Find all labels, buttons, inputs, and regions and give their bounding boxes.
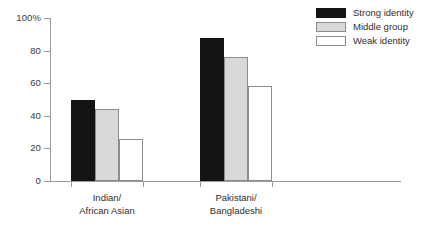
legend-swatch-middle-group: [316, 22, 346, 32]
legend-label-middle-group: Middle group: [353, 22, 408, 32]
y-axis-tick-label: 100%: [16, 13, 41, 23]
y-axis-tick-label: 60: [30, 78, 41, 88]
bar: [224, 57, 248, 181]
y-axis-tick-label: 0: [36, 176, 41, 186]
legend-item[interactable]: Weak identity: [316, 34, 414, 48]
legend-swatch-weak-identity: [316, 36, 346, 46]
legend-label-strong-identity: Strong identity: [353, 8, 414, 18]
category-label: Pakistani/Bangladeshi: [160, 192, 312, 217]
bar: [95, 109, 119, 181]
x-axis-tick: [71, 182, 72, 187]
bar: [119, 139, 143, 181]
category-label-line: Bangladeshi: [160, 205, 312, 218]
legend-item[interactable]: Strong identity: [316, 6, 414, 20]
bar: [200, 38, 224, 181]
x-axis-line: [50, 181, 401, 182]
category-label-line: Pakistani/: [160, 192, 312, 205]
x-axis-tick: [272, 182, 273, 187]
bar: [71, 100, 95, 182]
chart-legend: Strong identity Middle group Weak identi…: [316, 6, 414, 48]
bar-chart: 100%806040200 Indian/African AsianPakist…: [0, 0, 425, 229]
y-axis-tick-label: 80: [30, 46, 41, 56]
legend-swatch-strong-identity: [316, 8, 346, 18]
x-axis-tick: [200, 182, 201, 187]
y-axis-tick-label: 20: [30, 143, 41, 153]
y-axis-tick-label: 40: [30, 111, 41, 121]
bar: [248, 86, 272, 181]
y-axis-tick: [44, 181, 50, 182]
legend-label-weak-identity: Weak identity: [353, 36, 410, 46]
legend-item[interactable]: Middle group: [316, 20, 414, 34]
x-axis-tick: [143, 182, 144, 187]
